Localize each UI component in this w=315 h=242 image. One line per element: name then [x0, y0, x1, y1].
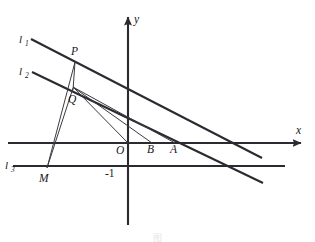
x-axis-label: x	[295, 124, 302, 136]
line-label-l2-sub: 2	[25, 71, 29, 80]
point-label-B: B	[147, 143, 154, 155]
y-tick-label-minus-one: -1	[105, 167, 115, 179]
point-label-Q: Q	[68, 93, 77, 105]
line-label-l2: l 2	[19, 65, 29, 80]
point-label-O: O	[116, 144, 125, 156]
segment-Q-A	[73, 87, 175, 143]
point-label-A: A	[169, 143, 178, 155]
line-label-l1-base: l	[19, 33, 22, 45]
point-label-P: P	[70, 45, 78, 57]
line-label-l3-sub: 3	[10, 165, 15, 174]
axis-group	[8, 17, 301, 225]
line-label-l1-sub: 1	[25, 39, 29, 48]
line-label-l2-base: l	[19, 65, 22, 77]
line-label-l1: l 1	[19, 33, 29, 48]
figure-caption: 图	[0, 231, 315, 242]
line-label-l3: l 3	[5, 159, 15, 174]
y-axis-label: y	[133, 13, 140, 26]
geometry-canvas: P Q M O B A x y -1 l 1 l 2 l 3	[0, 0, 315, 242]
segment-group	[47, 62, 175, 168]
line-label-l3-base: l	[5, 159, 8, 171]
geometry-figure: P Q M O B A x y -1 l 1 l 2 l 3 图	[0, 0, 315, 242]
point-label-M: M	[38, 172, 50, 184]
segment-P-M	[47, 62, 75, 168]
